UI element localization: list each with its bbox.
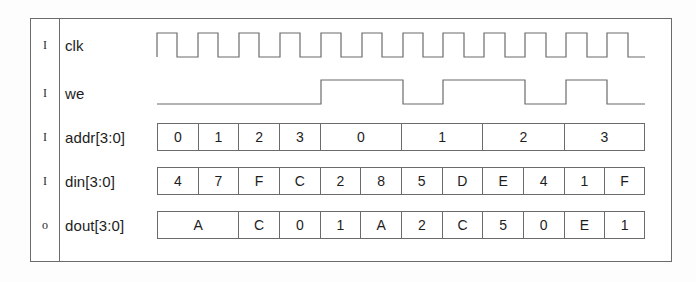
bus-cell[interactable]: F (604, 167, 645, 195)
signal-name-clk: clk (65, 23, 84, 67)
waveform-frame: I clk I we I addr[3:0] 01230123 (30, 18, 672, 262)
bus-cell[interactable]: 2 (401, 211, 442, 239)
bus-track-dout: AC01A2C50E1 (157, 211, 645, 239)
bus-cell[interactable]: 4 (523, 167, 564, 195)
bus-cell[interactable]: E (564, 211, 605, 239)
signal-name-din: din[3:0] (65, 159, 115, 203)
bus-cell[interactable]: 0 (320, 123, 401, 151)
bus-cell[interactable]: 2 (320, 167, 361, 195)
bus-din[interactable]: 47FC285DE41F (155, 159, 647, 203)
bus-cell[interactable]: C (238, 211, 279, 239)
signal-row-addr[interactable]: I addr[3:0] 01230123 (31, 115, 671, 159)
bus-cell[interactable]: D (442, 167, 483, 195)
bus-cell[interactable]: C (279, 167, 320, 195)
bus-cell[interactable]: 1 (198, 123, 239, 151)
bus-track-din: 47FC285DE41F (157, 167, 645, 195)
bus-cell[interactable]: 1 (401, 123, 482, 151)
bus-dout[interactable]: AC01A2C50E1 (155, 203, 647, 247)
bus-cell[interactable]: F (238, 167, 279, 195)
bus-cell[interactable]: 0 (157, 123, 198, 151)
bus-cell[interactable]: 3 (564, 123, 645, 151)
bus-cell[interactable]: 1 (564, 167, 605, 195)
bus-cell[interactable]: 1 (320, 211, 361, 239)
bus-cell[interactable]: 2 (238, 123, 279, 151)
signal-direction: o (31, 203, 59, 247)
bus-cell[interactable]: E (482, 167, 523, 195)
signal-name-dout: dout[3:0] (65, 203, 124, 247)
signal-name-we: we (65, 71, 84, 115)
signal-name-addr: addr[3:0] (65, 115, 125, 159)
bus-cell[interactable]: 7 (198, 167, 239, 195)
we-waveform-svg (155, 71, 647, 115)
waveform-clk[interactable] (155, 23, 647, 67)
signal-direction: I (31, 71, 59, 115)
signal-direction: I (31, 23, 59, 67)
bus-cell[interactable]: A (157, 211, 238, 239)
signal-row-we[interactable]: I we (31, 71, 671, 115)
bus-cell[interactable]: 8 (360, 167, 401, 195)
clk-waveform-svg (155, 23, 647, 67)
signal-direction: I (31, 115, 59, 159)
signal-row-dout[interactable]: o dout[3:0] AC01A2C50E1 (31, 203, 671, 247)
bus-cell[interactable]: 3 (279, 123, 320, 151)
bus-cell[interactable]: 0 (279, 211, 320, 239)
signal-direction: I (31, 159, 59, 203)
bus-cell[interactable]: 2 (482, 123, 563, 151)
bus-addr[interactable]: 01230123 (155, 115, 647, 159)
bus-cell[interactable]: 4 (157, 167, 198, 195)
signal-row-clk[interactable]: I clk (31, 23, 671, 67)
signal-row-din[interactable]: I din[3:0] 47FC285DE41F (31, 159, 671, 203)
bus-cell[interactable]: 5 (401, 167, 442, 195)
bus-cell[interactable]: 1 (604, 211, 645, 239)
bus-cell[interactable]: 5 (482, 211, 523, 239)
bus-track-addr: 01230123 (157, 123, 645, 151)
waveform-we[interactable] (155, 71, 647, 115)
bus-cell[interactable]: C (442, 211, 483, 239)
bus-cell[interactable]: A (360, 211, 401, 239)
waveform-screenshot: I clk I we I addr[3:0] 01230123 (0, 0, 696, 282)
bus-cell[interactable]: 0 (523, 211, 564, 239)
